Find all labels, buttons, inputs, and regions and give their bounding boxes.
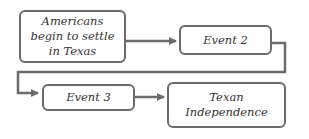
node-event-3: Event 3 (42, 84, 135, 111)
node-americans-settle: Americans begin to settle in Texas (19, 10, 126, 63)
timeline-diagram: Americans begin to settle in Texas Event… (0, 0, 309, 139)
node-texan-independence: Texan Independence (167, 82, 286, 128)
node-label: Texan Independence (185, 90, 268, 120)
node-label: Event 2 (203, 33, 248, 48)
node-event-2: Event 2 (179, 25, 272, 55)
node-label: Event 3 (66, 90, 111, 105)
node-label: Americans begin to settle in Texas (31, 14, 115, 59)
